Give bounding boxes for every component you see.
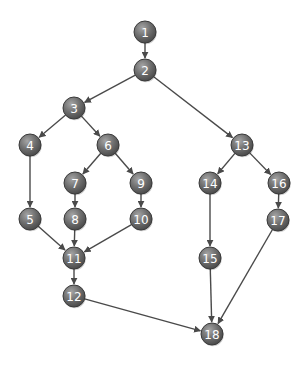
node-11: 11 (63, 247, 86, 270)
edge-10-to-11 (84, 225, 131, 252)
node-14: 14 (199, 172, 222, 195)
edge-15-to-18 (210, 269, 211, 322)
edge-5-to-11 (38, 226, 65, 250)
nodes-layer: 123456789101112131415161718 (19, 21, 291, 346)
node-label: 6 (104, 139, 112, 153)
node-label: 12 (66, 290, 81, 304)
edge-13-to-16 (250, 153, 271, 175)
node-label: 11 (66, 252, 81, 266)
node-2: 2 (134, 59, 157, 82)
edge-17-to-18 (218, 230, 272, 324)
node-label: 7 (71, 177, 79, 191)
edge-6-to-7 (83, 153, 101, 174)
node-label: 10 (133, 213, 148, 227)
node-7: 7 (64, 172, 87, 195)
node-label: 18 (204, 328, 219, 342)
node-label: 16 (271, 177, 286, 191)
node-label: 13 (234, 139, 249, 153)
node-label: 14 (202, 177, 217, 191)
node-5: 5 (19, 208, 42, 231)
node-label: 1 (141, 26, 149, 40)
node-15: 15 (199, 247, 222, 270)
flow-graph-diagram: 123456789101112131415161718 (0, 0, 307, 365)
node-label: 9 (137, 177, 145, 191)
edge-3-to-6 (81, 116, 99, 136)
node-label: 17 (270, 214, 285, 228)
node-9: 9 (130, 172, 153, 195)
node-4: 4 (19, 134, 42, 157)
node-12: 12 (63, 285, 86, 308)
node-3: 3 (63, 97, 86, 120)
node-label: 4 (26, 139, 34, 153)
edge-6-to-9 (115, 153, 133, 174)
node-16: 16 (268, 172, 291, 195)
node-10: 10 (130, 208, 153, 231)
node-8: 8 (64, 208, 87, 231)
node-17: 17 (267, 209, 290, 232)
edge-2-to-3 (85, 75, 136, 102)
node-label: 3 (70, 102, 78, 116)
node-18: 18 (201, 323, 224, 346)
edge-3-to-4 (39, 115, 65, 137)
node-label: 8 (71, 213, 79, 227)
node-label: 2 (141, 64, 149, 78)
edge-2-to-13 (154, 77, 233, 138)
node-label: 15 (202, 252, 217, 266)
edge-12-to-18 (85, 299, 201, 331)
node-label: 5 (26, 213, 34, 227)
node-1: 1 (134, 21, 157, 44)
edge-13-to-14 (218, 153, 235, 173)
